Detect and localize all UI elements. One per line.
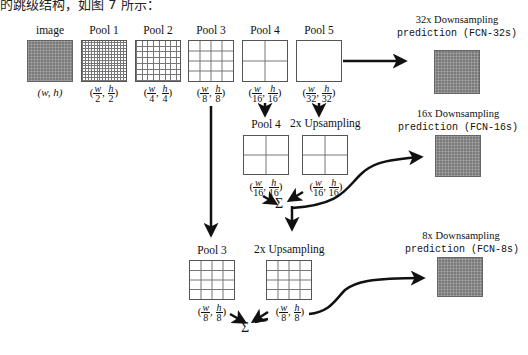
arrows-layer (0, 0, 528, 355)
arrow-row2-pool-to-sum (263, 196, 275, 203)
arrow-row3-pool-to-sum (230, 314, 244, 322)
arrow-row3-to-fcn8s (309, 278, 422, 314)
arrow-sum-to-fcn16s (292, 157, 420, 208)
arrow-row2-up-to-sum (290, 192, 303, 200)
